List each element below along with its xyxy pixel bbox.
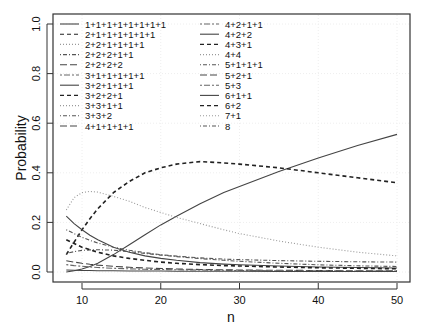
x-tick-label: 30 (233, 294, 245, 306)
legend: 1+1+1+1+1+1+1+12+1+1+1+1+1+12+2+1+1+1+12… (60, 19, 263, 132)
x-axis-label: n (227, 309, 235, 325)
chart: 1020304050 0.00.20.40.60.81.0 1+1+1+1+1+… (0, 0, 422, 332)
y-axis: 0.00.20.40.60.81.0 (30, 16, 53, 279)
x-tick-label: 50 (391, 294, 403, 306)
series-lines (66, 134, 397, 272)
y-tick-label: 0.0 (30, 264, 42, 279)
y-tick-label: 0.2 (30, 215, 42, 230)
x-tick-label: 10 (76, 294, 88, 306)
y-tick-label: 1.0 (30, 16, 42, 31)
x-axis: 1020304050 (76, 283, 403, 306)
x-tick-label: 20 (155, 294, 167, 306)
y-tick-label: 0.4 (30, 165, 42, 180)
series-line (66, 162, 397, 255)
x-tick-label: 40 (312, 294, 324, 306)
y-tick-label: 0.6 (30, 116, 42, 131)
legend-label: 4+1+1+1+1 (85, 121, 134, 132)
y-tick-label: 0.8 (30, 66, 42, 81)
series-line (66, 230, 397, 262)
y-axis-label: Probability (13, 115, 29, 180)
series-line (66, 216, 397, 268)
series-line (66, 191, 397, 256)
legend-label: 8 (225, 121, 230, 132)
